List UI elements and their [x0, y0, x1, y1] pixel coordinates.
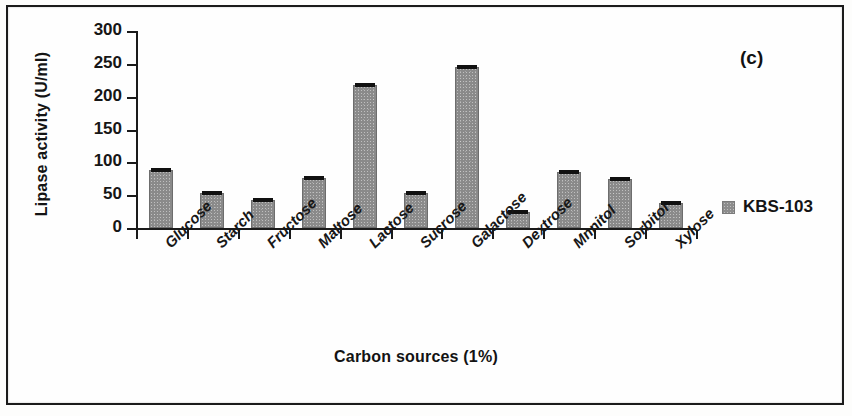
panel-label: (c) [740, 47, 763, 69]
y-axis-tick-mark [127, 162, 136, 164]
bar-slot [187, 31, 238, 228]
y-axis-tick-label: 250 [76, 53, 122, 73]
bar-slot [238, 31, 289, 228]
y-axis-tick-label: 0 [76, 217, 122, 237]
y-axis-tick-mark [127, 64, 136, 66]
y-axis-tick-mark [127, 31, 136, 33]
bar-slot [340, 31, 391, 228]
plot-area: 050100150200250300 [136, 31, 696, 230]
y-axis-tick-mark [127, 228, 136, 230]
legend-square-icon [722, 201, 735, 214]
error-bar-cap [355, 83, 375, 87]
x-axis-tick-mark [136, 230, 138, 239]
y-axis-tick-label: 150 [76, 119, 122, 139]
figure-border: Lipase activity (U/ml) 05010015020025030… [6, 5, 844, 405]
y-axis-tick-mark [127, 97, 136, 99]
error-bar-cap [202, 191, 222, 195]
bar-slot [289, 31, 340, 228]
error-bar-cap [457, 65, 477, 69]
error-bar-cap [406, 191, 426, 195]
legend-item-label: KBS-103 [743, 197, 813, 217]
bar-series-kbs-103 [136, 31, 696, 228]
y-axis-tick-label: 200 [76, 86, 122, 106]
bar [149, 170, 173, 228]
error-bar-cap [253, 198, 273, 202]
y-axis-tick-mark [127, 195, 136, 197]
error-bar-cap [151, 168, 171, 172]
figure-panel: Lipase activity (U/ml) 05010015020025030… [0, 0, 852, 416]
bar [251, 200, 275, 228]
bar-slot [391, 31, 442, 228]
y-axis-tick-label: 50 [76, 184, 122, 204]
bar-slot [594, 31, 645, 228]
error-bar-cap [304, 176, 324, 180]
error-bar-cap [610, 177, 630, 181]
error-bar-cap [559, 170, 579, 174]
x-axis-tick-labels: GlucoseStarchFructoseMaltoseLactoseSucro… [136, 239, 696, 329]
y-axis-title: Lipase activity (U/ml) [33, 27, 51, 242]
y-axis-tick-label: 300 [76, 20, 122, 40]
x-axis-title: Carbon sources (1%) [136, 348, 696, 366]
legend: KBS-103 [722, 197, 813, 217]
y-axis-tick-mark [127, 130, 136, 132]
bar-slot [441, 31, 492, 228]
bar-slot [645, 31, 696, 228]
y-axis-tick-label: 100 [76, 151, 122, 171]
bar-slot [136, 31, 187, 228]
